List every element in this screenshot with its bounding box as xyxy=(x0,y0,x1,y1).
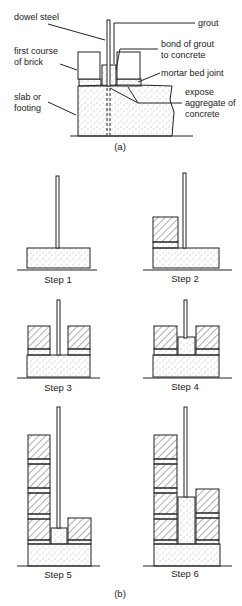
label-first-course-2: of brick xyxy=(14,57,43,67)
label-grout: grout xyxy=(198,18,219,28)
caption-step-5: Step 5 xyxy=(33,569,83,580)
caption-a: (a) xyxy=(105,141,135,152)
label-expose-1: expose xyxy=(185,87,214,97)
caption-step-1: Step 1 xyxy=(33,274,83,285)
step-1-drawing xyxy=(17,176,97,270)
label-bond-1: bond of grout xyxy=(161,39,214,49)
label-expose-2: aggregate of xyxy=(185,98,236,108)
step-5-drawing xyxy=(17,407,100,566)
label-bond-2: to concrete xyxy=(161,50,206,60)
step-4-drawing xyxy=(143,300,232,378)
slab xyxy=(78,85,174,136)
label-dowel-steel: dowel steel xyxy=(14,12,59,22)
caption-step-2: Step 2 xyxy=(160,273,210,284)
label-expose-3: concrete xyxy=(185,109,220,119)
label-slab-1: slab or xyxy=(14,92,41,102)
step-2-drawing xyxy=(143,173,232,270)
step-3-drawing xyxy=(17,300,100,378)
caption-step-6: Step 6 xyxy=(160,568,210,579)
caption-b: (b) xyxy=(105,588,135,599)
label-first-course-1: first course xyxy=(14,46,58,56)
label-slab-2: footing xyxy=(14,103,41,113)
step-6-drawing xyxy=(143,407,232,566)
caption-step-4: Step 4 xyxy=(160,381,210,392)
caption-step-3: Step 3 xyxy=(33,382,83,393)
figure-a xyxy=(48,20,195,136)
label-mortar-bed-joint: mortar bed joint xyxy=(161,68,224,78)
